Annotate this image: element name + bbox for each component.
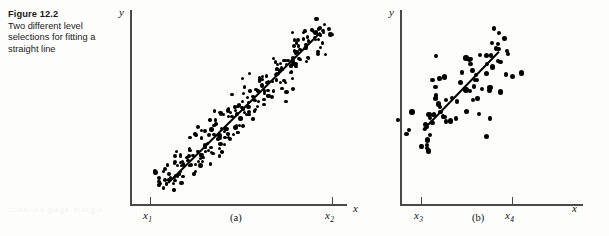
data-point xyxy=(173,160,177,164)
data-point xyxy=(434,54,438,58)
data-point xyxy=(237,104,240,107)
data-point xyxy=(448,118,453,123)
data-point xyxy=(253,109,256,112)
data-point xyxy=(227,136,230,139)
data-point xyxy=(199,153,202,156)
data-point xyxy=(316,50,319,53)
data-point xyxy=(247,110,251,114)
data-point xyxy=(318,26,322,30)
data-point xyxy=(437,76,441,80)
data-point xyxy=(297,57,300,60)
data-point xyxy=(317,27,320,30)
data-point xyxy=(425,143,429,147)
data-point xyxy=(302,31,305,34)
data-point xyxy=(214,122,217,125)
data-point xyxy=(157,183,160,186)
data-point xyxy=(179,181,183,185)
data-point xyxy=(173,179,176,182)
data-point xyxy=(454,116,458,120)
data-point xyxy=(458,80,463,85)
data-point xyxy=(498,60,502,64)
data-point xyxy=(173,154,177,158)
data-point xyxy=(201,160,204,163)
data-point xyxy=(258,77,262,81)
data-point xyxy=(290,70,293,73)
data-point xyxy=(425,137,430,142)
chart-b-xtick-label-4: x4 xyxy=(505,209,514,221)
data-point xyxy=(194,133,197,136)
data-point xyxy=(236,105,239,108)
data-point xyxy=(261,78,264,81)
data-point xyxy=(238,116,242,120)
data-point xyxy=(442,74,447,79)
data-point xyxy=(444,119,448,123)
data-point xyxy=(162,186,165,189)
data-point xyxy=(289,71,292,74)
data-point xyxy=(291,77,294,80)
data-point xyxy=(478,53,482,57)
data-point xyxy=(199,157,202,160)
scan-artifact-text: scanned page margin xyxy=(8,205,126,221)
data-point xyxy=(209,146,212,149)
data-point xyxy=(488,116,492,120)
data-point xyxy=(188,164,191,167)
data-point xyxy=(167,172,171,176)
data-point xyxy=(298,58,301,61)
data-point xyxy=(218,111,221,114)
data-point xyxy=(302,37,305,40)
data-point xyxy=(433,96,438,101)
data-point xyxy=(297,44,300,47)
data-point xyxy=(203,129,207,133)
data-point xyxy=(284,59,287,62)
data-point xyxy=(323,23,326,26)
data-point xyxy=(470,68,474,72)
data-point xyxy=(463,55,468,60)
data-point xyxy=(436,101,441,106)
chart-a-xtick-label-2: x2 xyxy=(325,209,334,221)
data-point xyxy=(238,124,241,127)
data-point xyxy=(194,163,197,166)
data-point xyxy=(282,79,285,82)
data-point xyxy=(166,163,169,166)
data-point xyxy=(181,160,184,163)
data-point xyxy=(234,109,237,112)
data-point xyxy=(477,112,481,116)
data-point xyxy=(198,163,202,167)
data-point xyxy=(251,117,254,120)
data-point xyxy=(200,136,203,139)
data-point xyxy=(266,94,270,98)
data-point xyxy=(307,56,310,59)
data-point xyxy=(327,27,331,31)
chart-a-xtick-2 xyxy=(332,197,333,205)
data-point xyxy=(294,65,297,68)
data-point xyxy=(284,90,288,94)
chart-b-xtick-3 xyxy=(421,197,422,205)
chart-a-y-axis-label: y xyxy=(119,6,124,18)
data-point xyxy=(159,182,162,185)
data-point xyxy=(496,59,500,63)
data-point xyxy=(290,64,293,67)
data-point xyxy=(490,41,494,45)
chart-a-x-axis-label: x xyxy=(353,202,358,214)
data-point xyxy=(291,31,294,34)
data-point xyxy=(464,109,469,114)
data-point xyxy=(487,85,492,90)
data-point xyxy=(210,151,213,154)
data-point xyxy=(492,26,496,30)
data-point xyxy=(211,152,214,155)
data-point xyxy=(196,125,200,129)
data-point xyxy=(258,80,261,83)
data-point xyxy=(441,114,445,118)
data-point xyxy=(324,53,327,56)
data-point xyxy=(484,134,489,139)
data-point xyxy=(433,85,437,89)
data-point xyxy=(276,63,279,66)
data-point xyxy=(241,100,244,103)
data-point xyxy=(213,110,216,113)
data-point xyxy=(293,50,296,53)
data-point xyxy=(426,112,431,117)
figure-caption-block: Figure 12.2 Two different level selectio… xyxy=(8,9,112,55)
data-point xyxy=(296,38,300,42)
data-point xyxy=(291,87,295,91)
data-point xyxy=(506,52,510,56)
